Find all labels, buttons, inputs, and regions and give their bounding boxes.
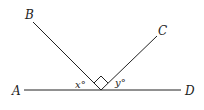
- right-angle-marker: [94, 76, 108, 83]
- angle-y-label: y°: [114, 77, 126, 88]
- angle-diagram: A B C D x° y°: [0, 0, 204, 110]
- label-A: A: [11, 84, 21, 98]
- angle-x-label: x°: [75, 79, 86, 90]
- label-D: D: [184, 84, 195, 98]
- ray-B: [33, 22, 101, 90]
- ray-C: [101, 36, 157, 90]
- label-C: C: [158, 24, 167, 38]
- label-B: B: [24, 8, 34, 22]
